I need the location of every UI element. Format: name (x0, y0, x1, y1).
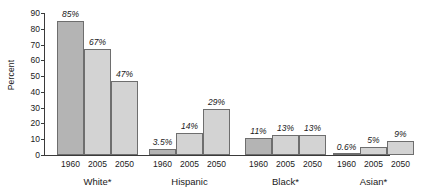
y-axis-tick-label: 80 (0, 25, 40, 34)
y-axis-tick-label: 40 (0, 88, 40, 97)
group-label: Asian* (313, 177, 434, 187)
y-axis-tick-label: 10 (0, 135, 40, 144)
bar (245, 138, 272, 155)
bar (203, 109, 230, 155)
y-axis-tick-label: 70 (0, 41, 40, 50)
bar (272, 135, 299, 156)
bar-value-label: 85% (51, 10, 90, 19)
bar-value-label: 67% (78, 38, 117, 47)
y-axis-tick (41, 155, 45, 156)
bar-value-label: 9% (381, 130, 420, 139)
bar (84, 49, 111, 155)
bar-chart: Percent 0102030405060708090 85%67%47%3.5… (0, 0, 435, 196)
y-axis-tick-label: 50 (0, 72, 40, 81)
bar-value-label: 47% (105, 70, 144, 79)
x-axis-tick-label: 2050 (383, 160, 418, 169)
y-axis-tick-label: 0 (0, 151, 40, 160)
bar (176, 133, 203, 155)
x-axis-tick-label: 2050 (199, 160, 234, 169)
bar (360, 147, 387, 155)
x-axis-tick-label: 2050 (295, 160, 330, 169)
bar-value-label: 13% (293, 124, 332, 133)
bar (149, 149, 176, 155)
bar (111, 81, 138, 155)
bar-value-label: 29% (197, 98, 236, 107)
x-axis-line (44, 155, 390, 156)
y-axis-tick-label: 60 (0, 56, 40, 65)
bar (333, 153, 360, 155)
y-axis-tick-label: 30 (0, 104, 40, 113)
y-axis-tick-label: 90 (0, 9, 40, 18)
x-axis-tick-label: 2050 (107, 160, 142, 169)
plot-area: 85%67%47%3.5%14%29%11%13%13%0.6%5%9% (45, 13, 390, 155)
y-axis-tick-label: 20 (0, 119, 40, 128)
bar (299, 135, 326, 156)
bar (387, 141, 414, 155)
